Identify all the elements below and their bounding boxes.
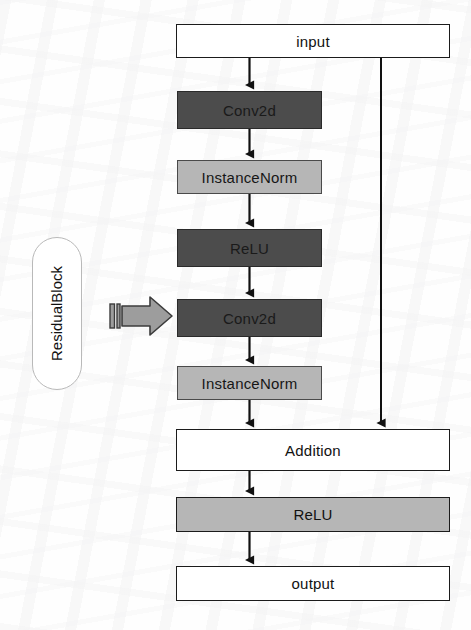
node-conv2d-1-label: Conv2d	[223, 102, 276, 119]
node-relu-2-label: ReLU	[293, 506, 332, 523]
block-arrow-right-icon	[110, 297, 172, 335]
node-output-label: output	[292, 575, 335, 592]
node-instancenorm-1-label: InstanceNorm	[202, 169, 298, 186]
diagram-canvas: ResidualBlock input Conv2d InstanceNorm …	[0, 0, 471, 630]
node-conv2d-2-label: Conv2d	[223, 310, 276, 327]
node-instancenorm-1[interactable]: InstanceNorm	[177, 160, 322, 194]
group-label-residualblock: ResidualBlock	[32, 237, 82, 390]
node-relu-1[interactable]: ReLU	[177, 229, 322, 267]
node-addition[interactable]: Addition	[176, 429, 450, 471]
node-output[interactable]: output	[176, 566, 450, 601]
group-label-text: ResidualBlock	[49, 266, 66, 361]
node-conv2d-2[interactable]: Conv2d	[177, 299, 322, 337]
node-conv2d-1[interactable]: Conv2d	[177, 91, 322, 129]
node-instancenorm-2-label: InstanceNorm	[202, 375, 298, 392]
node-relu-1-label: ReLU	[230, 240, 269, 257]
node-input[interactable]: input	[176, 24, 450, 58]
node-instancenorm-2[interactable]: InstanceNorm	[177, 366, 322, 400]
node-input-label: input	[296, 33, 330, 50]
node-relu-2[interactable]: ReLU	[176, 497, 450, 532]
node-addition-label: Addition	[285, 442, 341, 459]
